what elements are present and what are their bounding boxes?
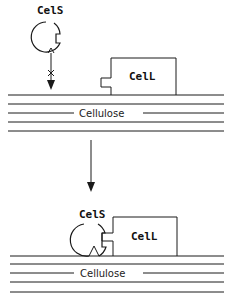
bottom-cell-label: CelL (131, 230, 158, 243)
bottom-cellulose-label: Cellulose (80, 268, 125, 279)
top-cels-label: CelS (37, 4, 64, 17)
top-arrow-head-icon (47, 80, 55, 90)
bottom-cels-bottom-notch (89, 246, 99, 256)
bottom-cels-enzyme-shape (70, 224, 106, 256)
transition-arrow (87, 140, 95, 192)
top-cell-label: CelL (129, 70, 156, 83)
transition-arrow-head-icon (87, 182, 95, 192)
top-cellulose-label: Cellulose (79, 108, 124, 119)
top-cels-enzyme-shape (31, 22, 60, 52)
cellulose-binding-diagram: CelS CelL Cellulose (0, 0, 228, 299)
top-panel: CelS CelL Cellulose (8, 4, 224, 131)
bottom-panel: CelL CelS Cellulose (10, 208, 224, 292)
bottom-cels-label: CelS (79, 208, 106, 221)
